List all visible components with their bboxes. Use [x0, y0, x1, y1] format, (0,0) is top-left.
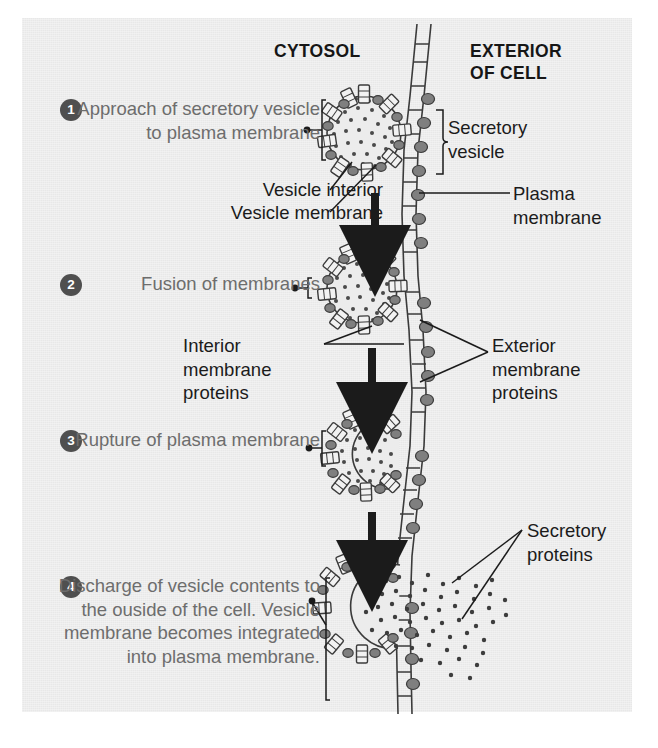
label-secretory-vesicle: Secretory vesicle [448, 116, 558, 163]
figure-root: CYTOSOL EXTERIOR OF CELL 1 Approach of s… [0, 0, 658, 748]
header-cytosol: CYTOSOL [274, 40, 360, 62]
label-plasma-membrane: Plasma membrane [513, 182, 608, 229]
step-text-2: Fusion of membranes [60, 272, 320, 296]
label-interior-membrane-proteins: Interior membrane proteins [183, 334, 321, 405]
exterior-membrane-protein-dots [405, 94, 435, 690]
header-exterior-of-cell: EXTERIOR OF CELL [470, 40, 562, 84]
label-vesicle-membrane: Vesicle membrane [160, 201, 383, 225]
step-text-1: Approach of secretory vesicle to plasma … [60, 97, 320, 144]
step-text-4: Discharge of vesicle contents to the ous… [40, 574, 320, 668]
process-arrows [372, 193, 375, 548]
label-vesicle-interior: Vesicle interior [183, 178, 383, 202]
label-exterior-membrane-proteins: Exterior membrane proteins [492, 334, 602, 405]
header-exterior-line2: OF CELL [470, 62, 562, 84]
label-secretory-proteins: Secretory proteins [527, 519, 632, 566]
curly-brace-icon [326, 578, 330, 700]
vesicle-step-3 [320, 407, 401, 502]
step-text-3: Rupture of plasma membrane [60, 428, 320, 452]
vesicle-step-2 [317, 242, 407, 334]
curly-brace-icon [436, 110, 448, 174]
vesicle-step-1 [317, 85, 411, 181]
header-exterior-line1: EXTERIOR [470, 40, 562, 62]
